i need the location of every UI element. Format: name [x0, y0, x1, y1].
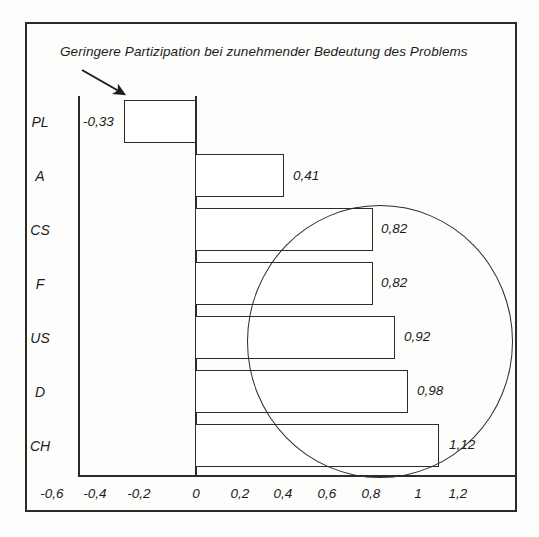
chart-annotation-text: Geringere Partizipation bei zunehmender …: [60, 44, 500, 59]
bar-pl[interactable]: [124, 100, 196, 143]
bar-d[interactable]: [195, 370, 408, 413]
xtick-label-4: 0,2: [220, 486, 260, 501]
value-label-ch: 1,12: [449, 437, 475, 452]
xtick-label-6: 0,6: [307, 486, 347, 501]
bar-a[interactable]: [195, 154, 284, 197]
bar-cs[interactable]: [195, 208, 373, 251]
value-label-f: 0,82: [381, 275, 407, 290]
figure-root: Geringere Partizipation bei zunehmender …: [0, 0, 539, 537]
bar-us[interactable]: [195, 316, 395, 359]
category-label-a: A: [17, 168, 63, 184]
category-label-d: D: [17, 384, 63, 400]
xtick-label-3: 0: [176, 486, 216, 501]
xtick-label-9: 1,2: [438, 486, 478, 501]
category-label-pl: PL: [17, 114, 63, 130]
chart-plot-area: Geringere Partizipation bei zunehmender …: [0, 0, 539, 537]
xtick-label-5: 0,4: [263, 486, 303, 501]
category-label-cs: CS: [17, 222, 63, 238]
value-label-pl: -0,33: [83, 114, 114, 129]
xtick-label-1: -0,4: [75, 486, 115, 501]
value-label-us: 0,92: [404, 329, 430, 344]
xtick-label-8: 1: [398, 486, 438, 501]
value-label-a: 0,41: [293, 168, 319, 183]
xtick-label-0: -0,6: [32, 486, 72, 501]
category-axis-rule: [78, 96, 80, 476]
xtick-label-2: -0,2: [119, 486, 159, 501]
bar-f[interactable]: [195, 262, 373, 305]
bar-ch[interactable]: [195, 424, 439, 467]
category-label-f: F: [17, 276, 63, 292]
xtick-label-7: 0,8: [351, 486, 391, 501]
category-label-ch: CH: [17, 438, 63, 454]
category-label-us: US: [17, 330, 63, 346]
value-label-cs: 0,82: [381, 221, 407, 236]
baseline-axis: [78, 475, 517, 477]
value-label-d: 0,98: [417, 383, 443, 398]
